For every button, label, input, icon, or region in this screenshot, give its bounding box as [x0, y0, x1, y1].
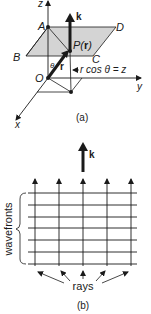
y-axis-label: y [136, 81, 143, 92]
point-d-label: D [116, 21, 124, 33]
projection-lines [48, 78, 82, 92]
diagram-canvas: z A D B C k P(r) θ r r cos θ = z O y x (… [0, 0, 151, 314]
figure-b: k wavefronts r [2, 142, 137, 311]
origin-label: O [35, 72, 44, 84]
theta-label: θ [50, 61, 55, 70]
point-b-label: B [13, 51, 20, 63]
pointer [61, 271, 70, 281]
pointer [96, 271, 105, 281]
figure-a: z A D B C k P(r) θ r r cos θ = z O y x (… [13, 0, 143, 130]
pointer [38, 272, 64, 283]
k-vector-b-label: k [89, 149, 95, 160]
point-p-label: P(r) [73, 39, 92, 51]
wavefronts-label: wavefronts [2, 202, 14, 257]
k-arrowhead-icon [65, 13, 75, 22]
caption-b: (b) [77, 300, 89, 311]
drop-line [70, 51, 71, 92]
r-vector-label: r [60, 61, 64, 72]
point-a-label: A [37, 20, 45, 32]
k-arrowhead-b-icon [78, 142, 88, 151]
pointer [102, 272, 128, 283]
x-axis-label: x [14, 119, 21, 130]
wavefronts-brace [16, 193, 26, 264]
rays-label: rays [73, 280, 94, 292]
wavefronts [28, 193, 137, 264]
k-vector-label: k [76, 11, 82, 22]
x-axis [16, 78, 48, 120]
z-axis-label: z [37, 0, 43, 9]
projection-dot [69, 90, 73, 94]
caption-a: (a) [76, 112, 88, 123]
rays [35, 179, 131, 266]
point-o-dot [46, 76, 50, 80]
point-p-dot [68, 49, 72, 53]
point-a-dot [46, 25, 50, 29]
relation-label: r cos θ = z [80, 64, 126, 75]
